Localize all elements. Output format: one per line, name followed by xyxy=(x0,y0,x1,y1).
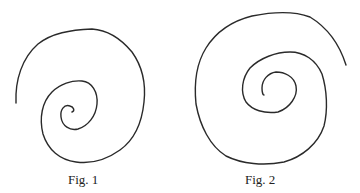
figure-1: Fig. 1 xyxy=(0,0,180,193)
figure-2: Fig. 2 xyxy=(180,0,360,193)
figure-1-caption: Fig. 1 xyxy=(68,172,98,188)
spiral-2-drawing xyxy=(180,0,360,193)
figure-2-caption: Fig. 2 xyxy=(245,172,275,188)
spiral-1-drawing xyxy=(0,0,180,193)
